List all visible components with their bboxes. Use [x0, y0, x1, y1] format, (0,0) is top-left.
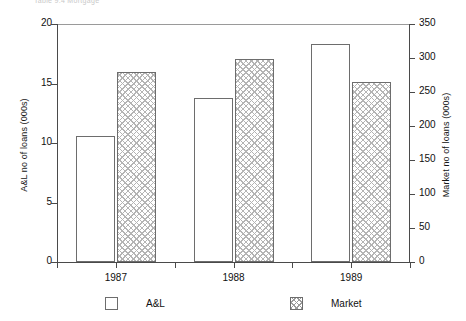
x-category-label: 1988 — [204, 272, 264, 283]
left-tick-label: 10 — [28, 136, 52, 147]
x-tick-mark — [234, 262, 235, 268]
left-tick-mark — [51, 203, 57, 204]
right-tick-mark — [409, 126, 415, 127]
bar-market — [235, 59, 274, 262]
right-tick-label: 200 — [419, 119, 445, 130]
legend-swatch-al-icon — [105, 297, 118, 310]
left-tick-label: 0 — [28, 255, 52, 266]
left-axis-line — [57, 24, 58, 262]
bar-al — [311, 44, 350, 262]
figure-caption: Table 9.4 Mortgage — [34, 0, 234, 5]
legend-label: A&L — [146, 298, 165, 309]
x-tick-mark — [410, 262, 411, 268]
left-axis-tick-labels: 05101520 — [26, 0, 52, 321]
chart-figure: Table 9.4 Mortgage A&L no of loans (000s… — [0, 0, 466, 321]
right-tick-label: 100 — [419, 187, 445, 198]
bar-market — [352, 82, 391, 262]
plot-area: 198719881989 — [57, 24, 410, 262]
legend-label: Market — [331, 298, 362, 309]
right-tick-label: 350 — [419, 17, 445, 28]
right-tick-label: 150 — [419, 153, 445, 164]
right-tick-mark — [409, 228, 415, 229]
x-category-label: 1987 — [86, 272, 146, 283]
right-tick-mark — [409, 92, 415, 93]
right-axis-tick-labels: 050100150200250300350 — [419, 0, 449, 321]
legend-entry[interactable]: Market — [290, 295, 362, 311]
right-tick-mark — [409, 58, 415, 59]
left-tick-label: 15 — [28, 77, 52, 88]
left-tick-label: 20 — [28, 17, 52, 28]
right-axis-line — [409, 24, 410, 262]
right-tick-label: 250 — [419, 85, 445, 96]
x-tick-mark — [351, 262, 352, 268]
bar-market — [117, 72, 156, 262]
left-tick-mark — [51, 84, 57, 85]
x-tick-mark — [57, 262, 58, 268]
right-tick-mark — [409, 194, 415, 195]
legend-swatch-market-icon — [290, 297, 303, 310]
left-tick-mark — [51, 24, 57, 25]
x-tick-mark — [175, 262, 176, 268]
right-tick-label: 50 — [419, 221, 445, 232]
left-tick-mark — [51, 143, 57, 144]
chart-legend: A&LMarket — [0, 295, 466, 315]
plot-top-border — [57, 24, 410, 25]
x-tick-mark — [292, 262, 293, 268]
x-tick-mark — [116, 262, 117, 268]
right-tick-mark — [409, 160, 415, 161]
right-tick-mark — [409, 24, 415, 25]
right-tick-label: 0 — [419, 255, 445, 266]
bar-al — [194, 98, 233, 262]
bar-al — [76, 136, 115, 262]
x-category-label: 1989 — [321, 272, 381, 283]
legend-entry[interactable]: A&L — [105, 295, 165, 311]
left-tick-label: 5 — [28, 196, 52, 207]
right-tick-label: 300 — [419, 51, 445, 62]
